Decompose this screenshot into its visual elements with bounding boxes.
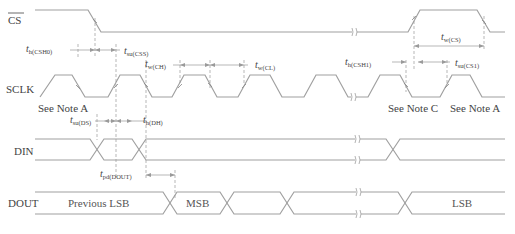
din-label: DIN [14,145,34,157]
din-break-icon [355,135,360,164]
dim-csh1 [392,60,406,64]
sclk-label: SCLK [6,83,34,95]
sclk-break-icon [351,93,356,101]
timing-diagram: CS SCLK DIN DOUT See Note A See Note C S… [0,0,515,234]
tw-cl-label: tw(CL) [255,59,275,72]
dim-pd-dout [146,173,175,177]
th-csh0-label: th(CSH0) [26,43,52,56]
dim-cs1 [418,60,450,64]
note-a-left: See Note A [38,102,88,114]
th-csh1-label: th(CSH1) [345,56,371,69]
dim-ch-cl [173,63,248,67]
din-waveform-top [35,139,505,160]
tw-ch-label: tw(CH) [145,58,166,71]
tsu-ds-label: tsu(DS) [70,114,91,127]
dim-ds-dh [95,119,146,123]
tw-cs-label: tw(CS) [441,31,461,44]
din-waveform-bottom [35,139,505,160]
dout-break-icon [356,188,361,218]
dim-cs-width [414,44,484,48]
dout-lsb: LSB [452,197,472,209]
cs-break-icon [352,28,357,36]
note-a-right: See Note A [450,102,500,114]
dout-label: DOUT [8,197,39,209]
dout-msb: MSB [186,197,209,209]
dout-previous-lsb: Previous LSB [68,197,129,209]
note-c: See Note C [388,102,438,114]
cs-label: CS [8,14,21,26]
sclk-waveform [40,75,505,97]
timing-diagram-canvas: CS SCLK DIN DOUT See Note A See Note C S… [0,0,515,234]
tsu-css-label: tsu(CSS) [124,45,148,58]
cs-waveform [35,10,505,32]
tsu-cs1-label: tsu(CS1) [455,57,479,70]
